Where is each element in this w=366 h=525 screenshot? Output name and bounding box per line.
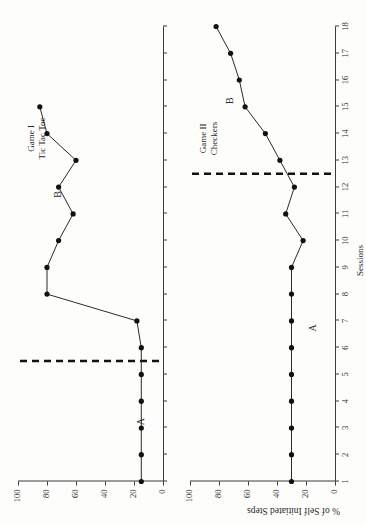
panel-game-2: 020406080100123456789101112131415161718G… <box>0 0 366 525</box>
data-point <box>289 478 294 483</box>
figure-stage: % of Self Initiated Steps Sessions 02040… <box>0 0 366 525</box>
data-point <box>289 425 294 430</box>
multiple-baseline-figure: % of Self Initiated Steps Sessions 02040… <box>0 0 366 525</box>
data-point <box>289 452 294 457</box>
data-point <box>289 371 294 376</box>
data-point <box>289 318 294 323</box>
data-point <box>289 291 294 296</box>
data-point <box>289 398 294 403</box>
series-svg-game-2 <box>0 0 366 525</box>
data-point <box>283 211 288 216</box>
data-point <box>237 77 242 82</box>
data-point <box>243 104 248 109</box>
data-point <box>214 23 219 28</box>
data-series-game-2 <box>216 26 303 481</box>
data-point <box>289 345 294 350</box>
data-point <box>289 264 294 269</box>
